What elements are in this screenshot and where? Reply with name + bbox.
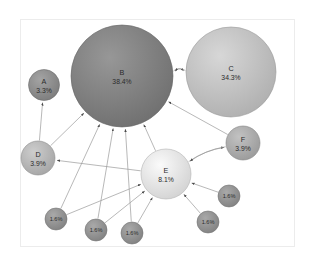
node-circle[interactable] bbox=[121, 222, 143, 244]
graph-node-f[interactable]: F3.9% bbox=[226, 126, 260, 160]
graph-edge bbox=[125, 129, 131, 221]
graph-node-c[interactable]: C34.3% bbox=[186, 27, 276, 117]
node-circle[interactable] bbox=[226, 126, 260, 160]
graph-node-b[interactable]: B38.4% bbox=[71, 25, 173, 127]
node-circle[interactable] bbox=[141, 149, 191, 199]
graph-node-small-s5[interactable]: 1.6% bbox=[218, 185, 240, 207]
graph-node-small-s2[interactable]: 1.6% bbox=[85, 219, 107, 241]
graph-node-e[interactable]: E8.1% bbox=[141, 149, 191, 199]
graph-edge bbox=[138, 198, 153, 223]
graph-node-small-s3[interactable]: 1.6% bbox=[121, 222, 143, 244]
graph-edge bbox=[184, 194, 201, 213]
graph-node-small-s1[interactable]: 1.6% bbox=[45, 208, 67, 230]
graph-node-small-s4[interactable]: 1.6% bbox=[197, 211, 219, 233]
graph-edge bbox=[39, 103, 42, 141]
graph-edge bbox=[189, 147, 225, 161]
graph-edge bbox=[190, 147, 226, 161]
graph-node-a[interactable]: A3.3% bbox=[29, 70, 60, 101]
network-graph: A3.3%B38.4%C34.3%D3.9%E8.1%F3.9%1.6%1.6%… bbox=[0, 0, 316, 269]
node-circle[interactable] bbox=[85, 219, 107, 241]
node-circle[interactable] bbox=[218, 185, 240, 207]
node-circle[interactable] bbox=[71, 25, 173, 127]
node-circle[interactable] bbox=[45, 208, 67, 230]
graph-node-d[interactable]: D3.9% bbox=[21, 141, 55, 175]
graph-edge bbox=[105, 191, 145, 223]
graph-edge bbox=[144, 125, 156, 151]
node-circle[interactable] bbox=[21, 141, 55, 175]
node-circle[interactable] bbox=[186, 27, 276, 117]
node-circle[interactable] bbox=[197, 211, 219, 233]
graph-edge bbox=[61, 124, 100, 208]
node-circle[interactable] bbox=[29, 70, 60, 101]
graph-edge bbox=[192, 183, 218, 192]
graph-edge bbox=[51, 113, 84, 146]
graph-edge bbox=[98, 128, 113, 218]
